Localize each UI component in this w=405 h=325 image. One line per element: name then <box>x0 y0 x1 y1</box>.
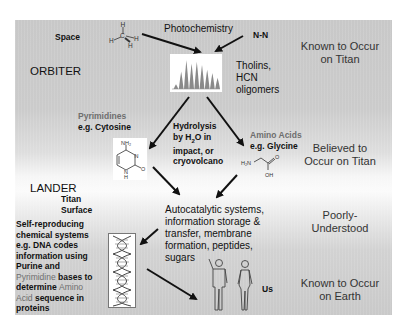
svg-text:N: N <box>135 153 139 159</box>
amino-acids-label: Amino Acids e.g. Glycine <box>250 130 302 151</box>
row-label-titan-surface: Titan Surface <box>61 194 92 215</box>
self-reproducing-systems-label: Self-reproducingchemical systemse.g. DNA… <box>16 219 108 314</box>
arrow-dna-to-us <box>147 269 196 299</box>
svg-text:NH₂: NH₂ <box>121 140 131 146</box>
dna-helix-icon <box>109 234 135 307</box>
hydrolysis-label: Hydrolysis by H2O in impact, or cryovolc… <box>173 121 223 167</box>
tholins-label: Tholins, HCN oligomers <box>236 60 279 96</box>
chromatogram-image <box>170 54 222 92</box>
humans-illustration-icon <box>208 255 260 315</box>
space-label: Space <box>55 32 80 43</box>
pyrimidines-label: Pyrimidines e.g. Cytosine <box>78 111 131 132</box>
svg-text:H: H <box>124 174 128 180</box>
cytosine-structure-icon: NH₂ N N H O <box>113 138 147 180</box>
status-poorly-understood: Poorly- Understood <box>300 209 380 235</box>
svg-text:O: O <box>275 154 280 160</box>
chromatogram-peaks-icon <box>170 54 222 92</box>
cytosine-molecule-image: NH₂ N N H O <box>113 138 147 180</box>
svg-text:H: H <box>109 37 114 44</box>
svg-text:H: H <box>121 21 126 28</box>
row-label-orbiter: ORBITER <box>30 65 81 78</box>
glycine-structure-icon: H₂N O OH <box>240 153 286 179</box>
svg-text:H: H <box>128 42 133 49</box>
svg-text:H₂N: H₂N <box>241 160 251 166</box>
status-known-earth: Known to Occur on Earth <box>300 277 380 303</box>
photochemistry-label: Photochemistry <box>164 23 233 35</box>
arrow-nitrogen-to-tholins <box>216 36 243 51</box>
svg-text:OH: OH <box>265 172 273 178</box>
svg-text:H: H <box>134 35 139 42</box>
arrow-cytosine-to-autocatalytic <box>153 167 179 194</box>
methane-molecule-icon: H C H H H <box>108 20 144 50</box>
status-known-titan: Known to Occur on Titan <box>300 40 380 66</box>
arrow-glycine-to-autocatalytic <box>217 175 237 197</box>
us-label: Us <box>262 284 273 295</box>
nitrogen-label: N-N <box>253 30 268 41</box>
svg-text:C: C <box>120 32 125 39</box>
svg-text:O: O <box>141 166 146 172</box>
status-believed-titan: Believed to Occur on Titan <box>300 142 380 168</box>
arrow-methane-to-tholins <box>142 34 200 52</box>
arrow-autocatalytic-to-dna <box>141 229 158 244</box>
dna-helix-image <box>108 233 136 308</box>
